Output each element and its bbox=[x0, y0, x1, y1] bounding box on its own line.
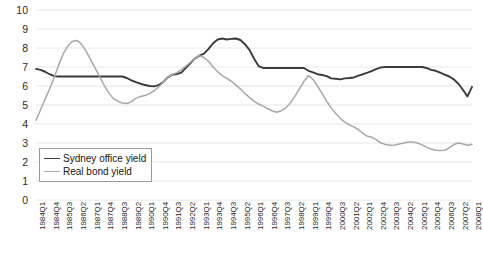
x-axis-tick-2000Q3: 2000Q3 bbox=[339, 202, 347, 230]
x-axis-tick-1984Q4: 1984Q4 bbox=[53, 202, 61, 230]
x-axis-tick-1992Q2: 1992Q2 bbox=[189, 202, 197, 230]
x-axis-tick-1999Q1: 1999Q1 bbox=[312, 202, 320, 230]
x-axis-tick-1987Q1: 1987Q1 bbox=[94, 202, 102, 230]
x-axis-tick-1993Q1: 1993Q1 bbox=[203, 202, 211, 230]
x-axis-tick-1995Q2: 1995Q2 bbox=[244, 202, 252, 230]
x-axis-tick-2002Q4: 2002Q4 bbox=[380, 202, 388, 230]
legend-label-real-bond-yield: Real bond yield bbox=[63, 167, 132, 177]
chart-legend: Sydney office yield Real bond yield bbox=[39, 148, 152, 182]
y-axis-tick-7: 7 bbox=[22, 62, 28, 73]
legend-label-sydney-office-yield: Sydney office yield bbox=[63, 154, 146, 164]
legend-swatch-sydney-office-yield bbox=[44, 158, 60, 159]
x-axis: 1984Q11984Q41985Q31986Q21987Q11987Q41988… bbox=[36, 202, 472, 256]
x-axis-tick-1987Q4: 1987Q4 bbox=[107, 202, 115, 230]
legend-swatch-real-bond-yield bbox=[44, 171, 60, 172]
x-axis-tick-1991Q3: 1991Q3 bbox=[175, 202, 183, 230]
y-axis-tick-5: 5 bbox=[22, 100, 28, 111]
x-axis-tick-1990Q4: 1990Q4 bbox=[162, 202, 170, 230]
x-axis-tick-2008Q1: 2008Q1 bbox=[475, 202, 483, 230]
y-axis-tick-10: 10 bbox=[16, 5, 28, 16]
legend-item-real-bond-yield: Real bond yield bbox=[44, 165, 146, 178]
x-axis-tick-1994Q3: 1994Q3 bbox=[230, 202, 238, 230]
x-axis-tick-1985Q3: 1985Q3 bbox=[66, 202, 74, 230]
x-axis-tick-1998Q2: 1998Q2 bbox=[298, 202, 306, 230]
y-axis: 012345678910 bbox=[0, 0, 34, 210]
y-axis-tick-4: 4 bbox=[22, 119, 28, 130]
x-axis-tick-1984Q1: 1984Q1 bbox=[39, 202, 47, 230]
x-axis-tick-1996Q1: 1996Q1 bbox=[257, 202, 265, 230]
x-axis-tick-1997Q3: 1997Q3 bbox=[284, 202, 292, 230]
x-axis-tick-2004Q2: 2004Q2 bbox=[407, 202, 415, 230]
x-axis-tick-1996Q4: 1996Q4 bbox=[271, 202, 279, 230]
y-axis-tick-0: 0 bbox=[22, 195, 28, 206]
x-axis-tick-1989Q2: 1989Q2 bbox=[135, 202, 143, 230]
x-axis-tick-1999Q4: 1999Q4 bbox=[325, 202, 333, 230]
series-layer bbox=[36, 39, 472, 151]
x-axis-tick-1993Q4: 1993Q4 bbox=[216, 202, 224, 230]
legend-item-sydney-office-yield: Sydney office yield bbox=[44, 152, 146, 165]
x-axis-tick-2005Q4: 2005Q4 bbox=[434, 202, 442, 230]
y-axis-tick-6: 6 bbox=[22, 81, 28, 92]
y-axis-tick-8: 8 bbox=[22, 43, 28, 54]
x-axis-tick-2005Q1: 2005Q1 bbox=[421, 202, 429, 230]
x-axis-tick-1990Q1: 1990Q1 bbox=[148, 202, 156, 230]
x-axis-tick-2007Q2: 2007Q2 bbox=[462, 202, 470, 230]
x-axis-tick-1986Q2: 1986Q2 bbox=[80, 202, 88, 230]
x-axis-tick-2006Q3: 2006Q3 bbox=[448, 202, 456, 230]
y-axis-tick-2: 2 bbox=[22, 157, 28, 168]
y-axis-tick-3: 3 bbox=[22, 138, 28, 149]
y-axis-tick-1: 1 bbox=[22, 176, 28, 187]
y-axis-tick-9: 9 bbox=[22, 24, 28, 35]
x-axis-tick-2002Q1: 2002Q1 bbox=[366, 202, 374, 230]
x-axis-tick-1988Q3: 1988Q3 bbox=[121, 202, 129, 230]
x-axis-tick-2003Q3: 2003Q3 bbox=[393, 202, 401, 230]
x-axis-tick-2001Q2: 2001Q2 bbox=[353, 202, 361, 230]
